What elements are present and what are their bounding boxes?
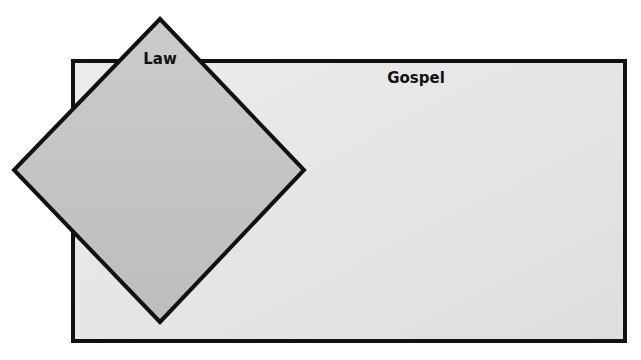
law-gospel-diagram: Gospel Law xyxy=(0,0,641,360)
gospel-label: Gospel xyxy=(387,69,445,87)
law-label: Law xyxy=(143,50,177,68)
